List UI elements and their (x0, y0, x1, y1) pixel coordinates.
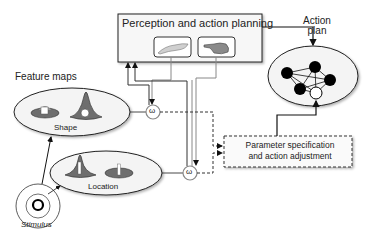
action-plan-label-line2: plan (302, 26, 332, 36)
perception-box-title: Perception and action planning (122, 18, 273, 29)
parameter-box-line1: Parameter specification (232, 140, 348, 151)
action-plan-ellipse (268, 46, 358, 106)
down-bar-icon (118, 164, 121, 175)
feature-maps-title: Feature maps (15, 72, 77, 82)
stimulus-to-shape-arrow (42, 137, 51, 184)
shape-map-label: Shape (54, 124, 77, 132)
plan-node (294, 83, 306, 95)
up-bar-icon (78, 162, 81, 174)
plan-node (324, 74, 336, 86)
parameter-box-line2: and action adjustment (232, 151, 348, 162)
circle-feature-icon (81, 109, 89, 117)
plan-node (309, 61, 321, 73)
plan-node-open (310, 87, 322, 99)
action-plan-label: Action plan (302, 16, 332, 36)
square-feature-icon (41, 107, 48, 114)
integrator-symbol-location: ω (186, 168, 192, 176)
location-map-label: Location (88, 183, 118, 191)
parameter-box-text: Parameter specification and action adjus… (232, 140, 348, 162)
integrator-symbol-shape: ω (149, 107, 155, 115)
diagram-canvas (0, 0, 373, 240)
stimulus-label: Stimulus (21, 221, 52, 229)
plan-node (281, 67, 293, 79)
